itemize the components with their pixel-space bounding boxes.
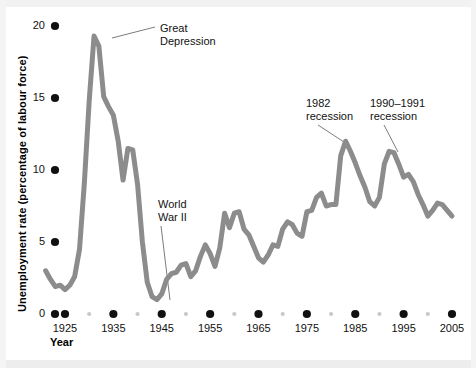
- annotation-line-1: Great: [160, 22, 188, 34]
- y-axis-tick-dot: [51, 238, 59, 246]
- unemployment-rate-chart: 05101520 1925193519451955196519751985199…: [0, 0, 476, 368]
- x-axis-major-tick-dot: [109, 310, 117, 318]
- x-axis-major-tick-dot: [206, 310, 214, 318]
- x-axis-tick-label: 1945: [142, 322, 182, 334]
- x-axis-minor-tick-dot: [281, 312, 285, 316]
- x-axis-tick-label: 1935: [93, 322, 133, 334]
- annotation-world-war-ii: WorldWar II: [158, 198, 187, 224]
- x-axis-tick-label: 1985: [335, 322, 375, 334]
- x-axis-tick-label: 1995: [384, 322, 424, 334]
- x-axis-major-tick-dot: [303, 310, 311, 318]
- x-axis-minor-tick-dot: [329, 312, 333, 316]
- x-axis-tick-label: 1925: [45, 322, 85, 334]
- annotation-line-2: War II: [158, 211, 187, 224]
- leader-line-great-depression: [112, 27, 155, 38]
- x-axis-tick-label: 1965: [239, 322, 279, 334]
- x-axis-major-tick-dot: [400, 310, 408, 318]
- y-axis-tick-dot: [51, 94, 59, 102]
- annotation-line-2: recession: [306, 110, 353, 123]
- annotation-great-depression: GreatDepression: [160, 22, 216, 48]
- x-axis-minor-tick-dot: [426, 312, 430, 316]
- x-axis-tick-label: 1975: [287, 322, 327, 334]
- y-axis-title: Unemployment rate (percentage of labour …: [16, 56, 28, 312]
- y-axis-tick-dot: [51, 22, 59, 30]
- x-axis-minor-tick-dot: [377, 312, 381, 316]
- x-axis-tick-label: 1955: [190, 322, 230, 334]
- unemployment-rate-line: [46, 36, 452, 300]
- y-axis-tick-dot: [51, 166, 59, 174]
- y-axis-tick-markers: [51, 22, 59, 318]
- plot-area: [0, 0, 476, 368]
- annotation-recession-1990-1991: 1990–1991recession: [370, 97, 425, 123]
- annotation-line-2: Depression: [160, 35, 216, 48]
- y-axis-tick-dot: [51, 310, 59, 318]
- y-axis-tick-label: 20: [23, 19, 45, 31]
- x-axis-minor-tick-dot: [87, 312, 91, 316]
- x-axis-major-tick-dot: [158, 310, 166, 318]
- x-axis-major-tick-dot: [61, 310, 69, 318]
- leader-line-recession-1982: [318, 125, 344, 142]
- x-axis-tick-label: 2005: [432, 322, 472, 334]
- x-axis-major-tick-markers: [61, 310, 456, 318]
- annotation-line-2: recession: [370, 110, 425, 123]
- x-axis-minor-tick-dot: [184, 312, 188, 316]
- x-axis-minor-tick-dot: [135, 312, 139, 316]
- leader-line-recession-1990-1991: [384, 125, 398, 152]
- x-axis-title: Year: [50, 336, 73, 348]
- x-axis-major-tick-dot: [448, 310, 456, 318]
- x-axis-major-tick-dot: [254, 310, 262, 318]
- annotation-recession-1982: 1982recession: [306, 97, 353, 123]
- x-axis-minor-tick-dot: [232, 312, 236, 316]
- x-axis-major-tick-dot: [351, 310, 359, 318]
- annotation-line-1: 1990–1991: [370, 97, 425, 109]
- annotation-line-1: 1982: [306, 97, 330, 109]
- annotation-line-1: World: [158, 198, 187, 210]
